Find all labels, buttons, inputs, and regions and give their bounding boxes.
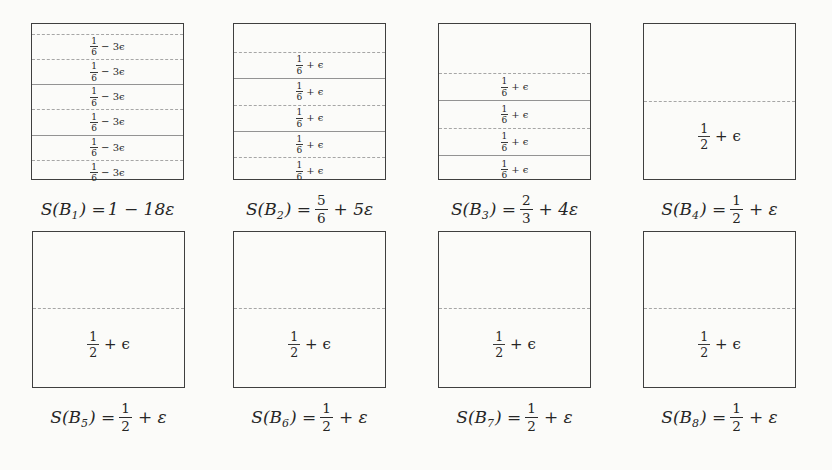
sum-fraction: 12 <box>119 400 132 433</box>
item-fraction-denominator: 6 <box>296 145 304 155</box>
sum-prefix: S(B <box>246 201 277 218</box>
bin-B7-box: 12+ ϵ <box>438 231 591 388</box>
item-fraction: 16 <box>296 134 304 156</box>
bin-B6-box: 12+ ϵ <box>233 231 386 388</box>
sum-subscript: 5 <box>81 418 88 429</box>
item-term: + ϵ <box>510 337 536 352</box>
bin-B1-item-5: 16− 3ϵ <box>32 135 183 160</box>
item-fraction-denominator: 6 <box>501 143 509 153</box>
item-term: − 3ϵ <box>101 42 125 52</box>
sum-subscript: 4 <box>692 210 699 221</box>
item-fraction-numerator: 1 <box>296 54 304 65</box>
item-term: − 3ϵ <box>101 117 125 127</box>
sum-fraction-denominator: 2 <box>730 210 743 226</box>
item-fraction: 16 <box>90 86 98 108</box>
item-fraction-denominator: 6 <box>90 47 98 57</box>
sum-fraction: 12 <box>730 400 743 433</box>
sum-prefix: S(B <box>251 409 282 426</box>
bin-B4-item-1: 12+ ϵ <box>644 101 795 180</box>
item-fraction: 12 <box>698 121 710 152</box>
bin-B1-item-4: 16− 3ϵ <box>32 109 183 134</box>
item-fraction-numerator: 1 <box>90 61 98 72</box>
item-term: + ϵ <box>306 140 323 150</box>
item-term: − 3ϵ <box>101 67 125 77</box>
item-term: + ϵ <box>511 137 528 147</box>
bin-B2-item-4: 16+ ϵ <box>234 131 385 157</box>
sum-prefix: S(B <box>50 409 81 426</box>
item-fraction: 16 <box>501 131 509 153</box>
sum-value: + ε <box>544 409 573 426</box>
sum-fraction-numerator: 5 <box>315 192 328 209</box>
bin-B8-sum-label: S(B8) =12+ ε <box>631 393 808 441</box>
item-label: 12+ ϵ <box>698 121 741 152</box>
item-label: 16− 3ϵ <box>90 137 124 159</box>
sum-fraction: 12 <box>730 192 743 225</box>
item-term: + ϵ <box>306 166 323 176</box>
bin-B3-box: 16+ ϵ 16+ ϵ 16+ ϵ 16+ ϵ <box>438 23 591 180</box>
item-fraction-numerator: 1 <box>501 131 509 142</box>
bin-B2-item-1: 16+ ϵ <box>234 52 385 78</box>
bin-B7-empty-space <box>439 232 590 308</box>
sum-fraction: 23 <box>520 192 533 225</box>
bin-B2-sum-label: S(B2) =56+ 5ε <box>221 185 398 233</box>
sum-value: + 5ε <box>334 201 374 218</box>
bin-B1-box: 16− 3ϵ 16− 3ϵ 16− 3ϵ 16− 3ϵ 16− 3ϵ 16− 3… <box>31 23 184 180</box>
item-label: 16− 3ϵ <box>90 112 124 134</box>
item-fraction-denominator: 6 <box>296 92 304 102</box>
item-term: − 3ϵ <box>101 168 125 178</box>
bin-B3-item-2: 16+ ϵ <box>439 100 590 128</box>
item-fraction: 12 <box>698 329 710 360</box>
bin-B3-item-3: 16+ ϵ <box>439 128 590 156</box>
bin-B1-empty-space <box>32 24 183 34</box>
sum-fraction-denominator: 6 <box>315 210 328 226</box>
item-label: 16− 3ϵ <box>90 61 124 83</box>
item-fraction: 16 <box>90 36 98 58</box>
item-fraction-denominator: 2 <box>699 137 709 152</box>
item-label: 12+ ϵ <box>493 329 536 360</box>
sum-equals: ) = <box>700 201 726 218</box>
sum-subscript: 7 <box>487 418 494 429</box>
item-term: − 3ϵ <box>101 92 125 102</box>
sum-subscript: 8 <box>692 418 699 429</box>
item-fraction: 16 <box>296 54 304 76</box>
bin-B1-item-2: 16− 3ϵ <box>32 59 183 84</box>
item-fraction: 16 <box>90 112 98 134</box>
item-label: 16+ ϵ <box>501 76 529 98</box>
sum-equals: ) = <box>495 409 521 426</box>
sum-value: 1 − 18ε <box>108 201 175 218</box>
item-fraction-numerator: 1 <box>296 134 304 145</box>
bin-B2-box: 16+ ϵ 16+ ϵ 16+ ϵ 16+ ϵ 16+ ϵ <box>233 23 386 180</box>
sum-value: + ε <box>138 409 167 426</box>
bin-B5-box: 12+ ϵ <box>32 231 185 388</box>
item-fraction-numerator: 1 <box>501 159 509 170</box>
item-fraction: 16 <box>90 162 98 184</box>
sum-fraction-numerator: 2 <box>520 192 533 209</box>
bin-B4-box: 12+ ϵ <box>643 23 796 180</box>
bin-B2-item-5: 16+ ϵ <box>234 157 385 183</box>
item-label: 16+ ϵ <box>501 131 529 153</box>
item-fraction-denominator: 6 <box>296 119 304 129</box>
item-fraction-denominator: 6 <box>90 73 98 83</box>
bin-B4-empty-space <box>644 24 795 101</box>
bin-B6-item-1: 12+ ϵ <box>234 308 385 388</box>
bin-B5-empty-space <box>33 232 184 308</box>
sum-equals: ) = <box>79 201 105 218</box>
bin-B8-box: 12+ ϵ <box>643 231 796 388</box>
sum-fraction-numerator: 1 <box>730 192 743 209</box>
item-label: 16+ ϵ <box>501 159 529 181</box>
item-term: + ϵ <box>715 129 741 144</box>
bin-B8-empty-space <box>644 232 795 308</box>
sum-fraction: 12 <box>320 400 333 433</box>
item-fraction-numerator: 1 <box>296 160 304 171</box>
sum-value: + 4ε <box>539 201 579 218</box>
item-term: + ϵ <box>306 113 323 123</box>
item-label: 12+ ϵ <box>288 329 331 360</box>
bin-B2-item-3: 16+ ϵ <box>234 105 385 131</box>
bin-B2-item-2: 16+ ϵ <box>234 78 385 104</box>
sum-value: + ε <box>749 409 778 426</box>
item-fraction-numerator: 1 <box>87 329 99 345</box>
bin-B3-item-1: 16+ ϵ <box>439 73 590 101</box>
bin-B1-item-3: 16− 3ϵ <box>32 84 183 109</box>
sum-fraction-numerator: 1 <box>320 400 333 417</box>
item-fraction-denominator: 2 <box>88 345 98 360</box>
